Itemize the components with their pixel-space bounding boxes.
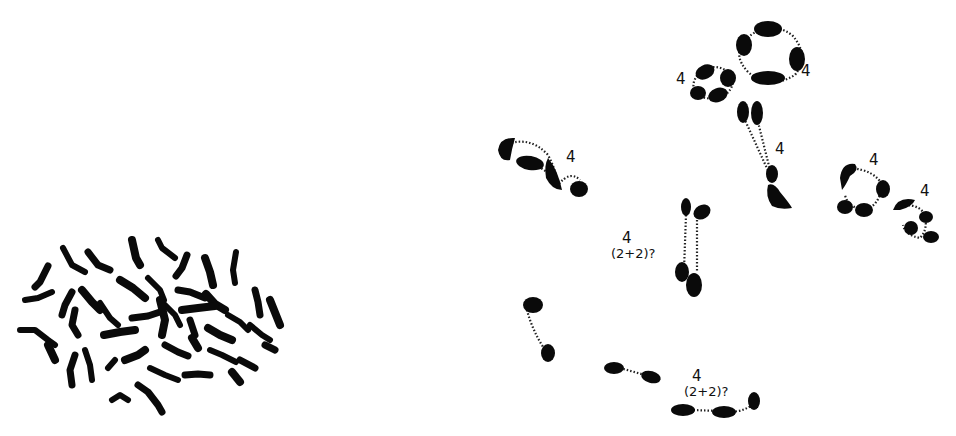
chromosome [72,310,78,335]
chromosome [63,248,85,272]
chromosome [228,315,248,330]
bivalent-lower-mid [604,362,662,385]
chromosome [125,350,145,360]
chromosome [112,395,128,400]
chromosome [205,258,213,285]
chromosome [120,280,145,298]
chromosome-figure: 4 4 4 4 [0,0,956,436]
chromosome [35,266,48,287]
quadrivalent-chain-bottom: 4 (2+2)? [671,367,760,418]
chromosome [178,290,205,298]
chromosome [192,338,198,348]
chromosome [233,252,236,283]
bivalent-pair-mid: 4 (2+2)? [611,198,713,297]
chromosome [25,292,52,300]
chromosome [88,252,110,270]
chromosome [62,292,72,315]
quadrivalent-ring-right-a: 4 [837,151,890,217]
label-4: 4 [566,148,576,166]
label-4: 4 [775,140,785,158]
chromosome [270,300,280,325]
chromosome [132,312,160,318]
chromosome [210,350,236,362]
chromosome [104,330,135,335]
chromosome [232,372,240,382]
chromosome [150,368,178,380]
label-4: 4 [622,229,632,247]
chromosome [165,345,188,356]
chromosome [160,300,165,335]
chromosome [208,328,232,340]
meiotic-configurations: 4 4 4 4 [498,21,939,418]
chromosome [82,290,100,310]
chromosome [108,360,115,368]
quadrivalent-chain-left: 4 [498,138,588,197]
label-4: 4 [920,182,930,200]
chromosome [132,240,140,265]
chromosome [265,345,275,350]
chromosome [240,360,255,368]
quadrivalent-ring-large: 4 [736,21,811,85]
chromosome [138,385,162,412]
label-4: 4 [692,367,702,385]
quadrivalent-ring-right-b: 4 [893,182,939,243]
label-4: 4 [676,70,686,88]
chromosome [250,325,270,340]
chromosome [70,355,75,385]
chromosome [185,374,210,375]
quadrivalent-ring-small: 4 [676,61,736,105]
label-4: 4 [801,62,811,80]
quadrivalent-chain-center: 4 [737,101,792,209]
metaphase-spread [20,240,280,412]
label-2plus2: (2+2)? [611,246,655,261]
bivalent-left-lower [523,297,555,362]
chromosome [255,290,260,315]
label-4: 4 [869,151,879,169]
chromosome [182,306,215,310]
chromosome [190,320,195,335]
label-2plus2: (2+2)? [684,384,728,399]
chromosome [158,240,175,258]
chromosome [100,303,118,325]
chromosome [85,350,92,380]
